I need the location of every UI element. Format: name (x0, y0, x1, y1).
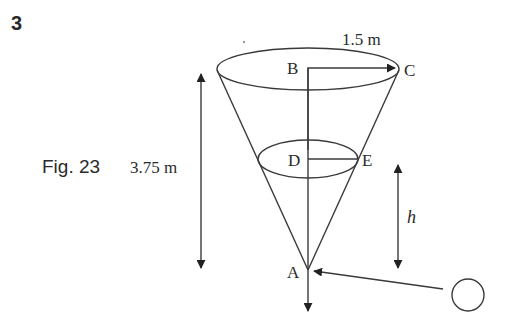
speck (243, 41, 245, 43)
height-label: 3.75 m (130, 158, 177, 177)
label-a: A (287, 263, 300, 282)
label-c: C (404, 61, 415, 80)
question-number: 3 (11, 12, 22, 34)
radius-label: 1.5 m (342, 30, 381, 49)
cone-diagram: 3 Fig. 23 3.75 m 1.5 m B C D E A h (0, 0, 508, 331)
cone-right-side (308, 70, 399, 270)
pointer-arrow (314, 271, 443, 289)
label-b: B (287, 59, 298, 78)
label-d: D (288, 151, 300, 170)
label-e: E (362, 151, 372, 170)
callout-circle (452, 279, 484, 311)
figure-caption: Fig. 23 (42, 156, 100, 177)
cone-left-side (217, 70, 308, 270)
h-label: h (407, 207, 416, 227)
